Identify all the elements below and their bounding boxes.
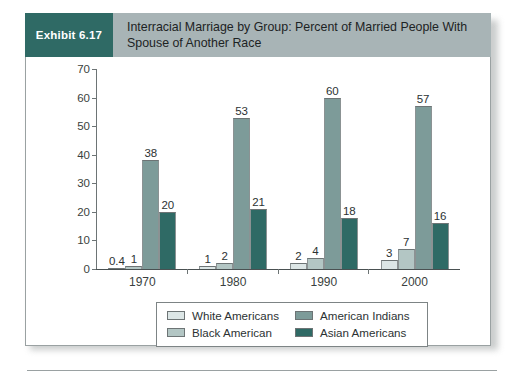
y-tick-label: 70 <box>77 63 90 75</box>
bar-group: 125321 <box>188 69 279 269</box>
chart-legend: White AmericansAmerican IndiansBlack Ame… <box>156 302 428 347</box>
bar: 2 <box>216 263 233 269</box>
bar-value-label: 57 <box>417 93 430 105</box>
legend-item: White Americans <box>167 309 289 322</box>
exhibit-page: Exhibit 6.17 Interracial Marriage by Gro… <box>0 0 522 381</box>
bar-value-label: 53 <box>235 105 248 117</box>
bar: 3 <box>381 260 398 269</box>
bar-value-label: 3 <box>386 247 392 259</box>
bar-value-label: 7 <box>403 236 409 248</box>
bar-group: 246018 <box>279 69 370 269</box>
bar: 16 <box>432 223 449 269</box>
bar-value-label: 20 <box>161 199 174 211</box>
y-tick-label: 10 <box>77 234 90 246</box>
bar-group: 0.413820 <box>97 69 188 269</box>
bar-value-label: 4 <box>312 245 318 257</box>
y-tick-mark <box>92 126 96 127</box>
legend-label: White Americans <box>192 309 279 322</box>
bar-value-label: 2 <box>295 250 301 262</box>
bar: 53 <box>233 118 250 269</box>
y-tick-label: 40 <box>77 149 90 161</box>
x-tick-label: 1970 <box>97 275 188 289</box>
y-tick-mark <box>92 69 96 70</box>
exhibit-badge-label: Exhibit 6.17 <box>36 29 102 41</box>
x-axis: 1970198019902000 <box>97 275 460 289</box>
bar: 0.4 <box>108 268 125 270</box>
y-tick-mark <box>92 183 96 184</box>
bar: 7 <box>398 249 415 269</box>
plot-area: 010203040506070 0.4138201253212460183757… <box>62 69 460 277</box>
x-tick-mark <box>278 269 279 274</box>
bar-value-label: 60 <box>326 85 339 97</box>
bars-area: 0.413820125321246018375716 <box>97 69 460 269</box>
y-tick-mark <box>92 240 96 241</box>
legend-item: Asian Americans <box>295 326 417 339</box>
bar: 57 <box>415 106 432 269</box>
x-tick-mark <box>368 269 369 274</box>
bar-value-label: 2 <box>221 250 227 262</box>
page-bottom-rule <box>27 370 497 371</box>
bar: 18 <box>341 218 358 269</box>
y-tick-label: 30 <box>77 177 90 189</box>
bar: 2 <box>290 263 307 269</box>
bar: 1 <box>199 266 216 269</box>
exhibit-badge: Exhibit 6.17 <box>25 13 113 57</box>
x-tick-label: 1990 <box>279 275 370 289</box>
legend-label: American Indians <box>320 309 410 322</box>
legend-item: American Indians <box>295 309 417 322</box>
x-tick-mark <box>187 269 188 274</box>
y-tick-mark <box>92 269 96 270</box>
y-tick-label: 60 <box>77 92 90 104</box>
bar-value-label: 16 <box>434 210 447 222</box>
y-tick-label: 20 <box>77 206 90 218</box>
bar: 4 <box>307 258 324 269</box>
legend-item: Black American <box>167 326 289 339</box>
x-tick-label: 1980 <box>188 275 279 289</box>
bar: 38 <box>142 160 159 269</box>
bar: 1 <box>125 266 142 269</box>
y-tick-label: 50 <box>77 120 90 132</box>
bar-value-label: 18 <box>343 205 356 217</box>
legend-label: Asian Americans <box>320 326 406 339</box>
y-tick-mark <box>92 155 96 156</box>
bar-value-label: 38 <box>144 147 157 159</box>
bar-value-label: 1 <box>204 253 210 265</box>
y-axis: 010203040506070 <box>62 69 90 269</box>
bar-value-label: 1 <box>131 253 137 265</box>
legend-label: Black American <box>192 326 272 339</box>
bar: 20 <box>159 212 176 269</box>
bar: 60 <box>324 98 341 269</box>
bar-value-label: 0.4 <box>109 255 125 267</box>
legend-swatch <box>295 328 313 337</box>
bar: 21 <box>250 209 267 269</box>
y-tick-label: 0 <box>84 263 90 275</box>
legend-swatch <box>167 311 185 320</box>
bar-value-label: 21 <box>252 196 265 208</box>
chart-panel: 010203040506070 0.4138201253212460183757… <box>25 57 491 346</box>
y-tick-mark <box>92 98 96 99</box>
exhibit-title: Interracial Marriage by Group: Percent o… <box>113 13 491 57</box>
x-tick-label: 2000 <box>369 275 460 289</box>
exhibit-header: Exhibit 6.17 Interracial Marriage by Gro… <box>25 13 491 57</box>
legend-swatch <box>167 328 185 337</box>
bar-group: 375716 <box>369 69 460 269</box>
legend-swatch <box>295 311 313 320</box>
y-tick-mark <box>92 212 96 213</box>
